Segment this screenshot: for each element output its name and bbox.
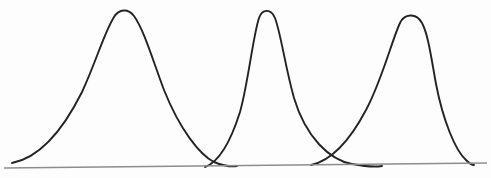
- bell-curves-figure: [0, 0, 491, 178]
- figure-canvas: [0, 0, 491, 178]
